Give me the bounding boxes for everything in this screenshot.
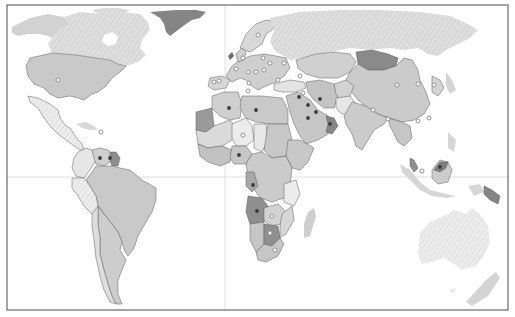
hollow-dot-marker [241,56,245,60]
hollow-dot-marker [427,116,431,120]
hollow-dot-marker [268,61,272,65]
hollow-dot-marker [298,74,302,78]
filled-dot-marker [251,183,255,187]
filled-dot-marker [237,153,241,157]
hollow-dot-marker [276,78,280,82]
hollow-dot-marker [212,80,216,84]
hollow-dot-marker [217,79,221,83]
hollow-dot-marker [420,169,424,173]
hollow-dot-marker [416,119,420,123]
hollow-dot-marker [282,61,286,65]
filled-dot-marker [254,108,258,112]
hollow-dot-marker [247,81,251,85]
filled-dot-marker [108,156,112,160]
filled-dot-marker [306,116,310,120]
hollow-dot-marker [432,83,436,87]
filled-dot-marker [318,97,322,101]
hollow-dot-marker [270,214,274,218]
hollow-dot-marker [262,68,266,72]
hollow-dot-marker [273,248,277,252]
hollow-dot-marker [246,89,250,93]
hollow-dot-marker [371,108,375,112]
map-canvas [0,0,515,317]
hollow-dot-marker [254,70,258,74]
filled-dot-marker [255,209,259,213]
hollow-dot-marker [268,231,272,235]
hollow-dot-marker [301,91,305,95]
filled-dot-marker [297,95,301,99]
hollow-dot-marker [246,70,250,74]
filled-dot-marker [438,165,442,169]
hollow-dot-marker [416,82,420,86]
hollow-dot-marker [395,83,399,87]
filled-dot-marker [306,103,310,107]
hollow-dot-marker [386,117,390,121]
world-map [0,0,515,317]
hollow-dot-marker [234,67,238,71]
filled-dot-marker [328,122,332,126]
hollow-dot-marker [261,56,265,60]
hollow-dot-marker [256,33,260,37]
hollow-dot-marker [99,130,103,134]
filled-dot-marker [227,106,231,110]
filled-dot-marker [98,156,102,160]
hollow-dot-marker [241,133,245,137]
filled-dot-marker [314,110,318,114]
hollow-dot-marker [56,78,60,82]
